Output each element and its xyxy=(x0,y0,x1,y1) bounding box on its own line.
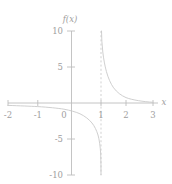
x-tick-label--2: -2 xyxy=(4,110,12,120)
x-axis-label: x xyxy=(162,97,167,107)
y-tick-label-5: 5 xyxy=(58,62,63,72)
x-tick-label-3: 3 xyxy=(150,110,155,120)
y-tick-label--10: -10 xyxy=(49,170,63,180)
y-tick-label--5: -5 xyxy=(55,134,63,144)
y-tick-label-10: 10 xyxy=(52,26,63,36)
x-tick-label-0: 0 xyxy=(61,110,66,120)
plot-canvas: f(x) x 10 5 -5 -10 -2 -1 0 1 2 3 xyxy=(0,0,172,184)
x-tick-label-1: 1 xyxy=(98,110,103,120)
curve-right-branch xyxy=(102,31,154,102)
x-tick-label-2: 2 xyxy=(123,110,128,120)
y-axis-label: f(x) xyxy=(62,14,78,24)
x-tick-label--1: -1 xyxy=(34,110,42,120)
function-graph-figure: f(x) x 10 5 -5 -10 -2 -1 0 1 2 3 xyxy=(0,0,172,184)
